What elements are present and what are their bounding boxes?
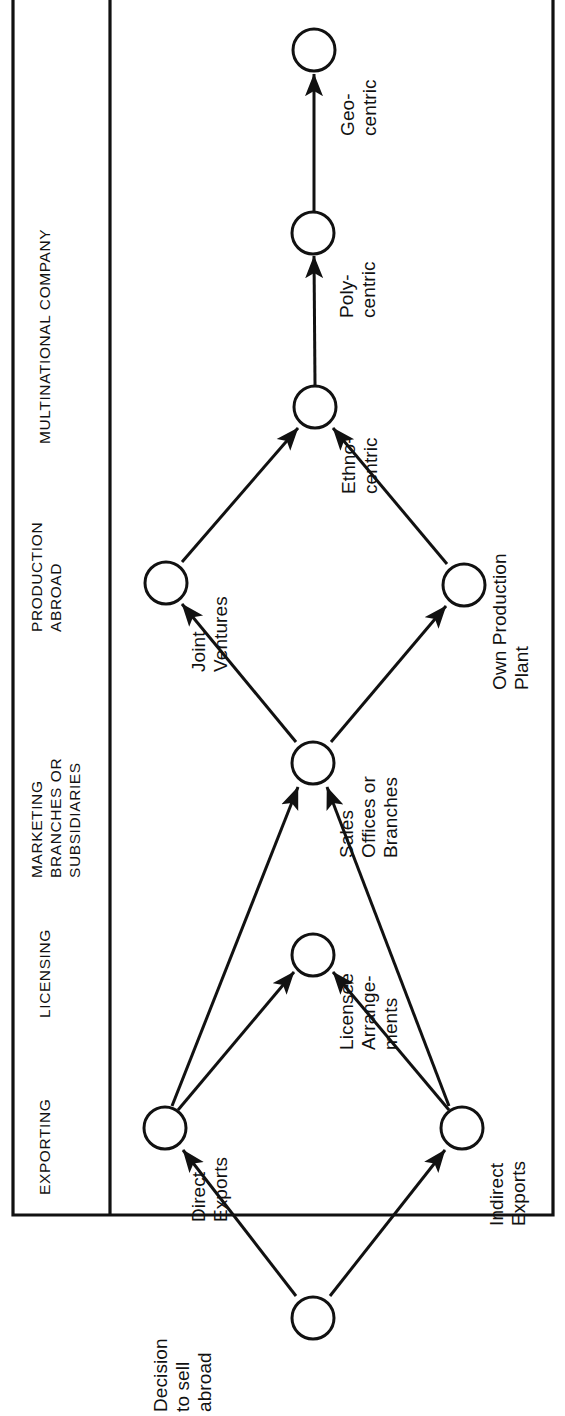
node-label-ethnocentric: Ethno- centric bbox=[338, 437, 382, 494]
edge-joint-ventures-to-ethnocentric bbox=[182, 428, 298, 562]
node-label-decision-line1: Decision bbox=[150, 1338, 172, 1412]
node-indirect-exports bbox=[441, 1107, 483, 1149]
node-label-own-line1: Own Production bbox=[489, 553, 511, 690]
node-label-direct-line1: Direct bbox=[188, 1157, 210, 1222]
node-licensee bbox=[292, 934, 334, 976]
header-label-marketing: MARKETING BRANCHES OR SUBSIDIARIES bbox=[28, 758, 85, 878]
node-label-licensee: Licensee Arrange- ments bbox=[336, 973, 402, 1050]
node-label-indirect-exports: Indirect Exports bbox=[486, 1161, 530, 1226]
node-label-polycentric: Poly- centric bbox=[336, 261, 380, 318]
node-polycentric bbox=[292, 212, 334, 254]
node-geocentric bbox=[293, 29, 335, 71]
node-ethnocentric bbox=[294, 386, 336, 428]
nodes-group bbox=[144, 29, 485, 1339]
header-label-licensing: LICENSING bbox=[36, 929, 53, 1018]
node-label-direct-exports: Direct Exports bbox=[188, 1157, 232, 1222]
diagram-vector-layer bbox=[0, 0, 565, 1416]
node-label-decision-line3: abroad bbox=[194, 1338, 216, 1412]
node-label-sales-offices: Sales Offices or Branches bbox=[336, 776, 402, 858]
header-exporting-text: EXPORTING bbox=[36, 1099, 53, 1195]
header-licensing-text: LICENSING bbox=[36, 929, 53, 1018]
header-marketing-line3: SUBSIDIARIES bbox=[66, 758, 85, 878]
node-own-production bbox=[443, 564, 485, 606]
node-label-licensee-line2: Arrange- bbox=[358, 973, 380, 1050]
diagram-canvas: EXPORTING LICENSING MARKETING BRANCHES O… bbox=[0, 0, 565, 1416]
node-label-poly-line2: centric bbox=[358, 261, 380, 318]
node-label-own-production: Own Production Plant bbox=[489, 553, 533, 690]
edge-sales-offices-to-own-production bbox=[331, 606, 446, 742]
edges-group bbox=[172, 74, 449, 1296]
node-label-indirect-line2: Exports bbox=[508, 1161, 530, 1226]
node-label-decision: Decision to sell abroad bbox=[150, 1338, 216, 1412]
node-label-indirect-line1: Indirect bbox=[486, 1161, 508, 1226]
header-marketing-line1: MARKETING bbox=[28, 758, 47, 878]
header-label-exporting: EXPORTING bbox=[36, 1099, 53, 1195]
node-decision bbox=[292, 1297, 334, 1339]
node-label-sales-line2: Offices or bbox=[358, 776, 380, 858]
node-label-own-line2: Plant bbox=[511, 553, 533, 690]
node-label-geo-line1: Geo- bbox=[337, 79, 359, 136]
header-label-multinational: MULTINATIONAL COMPANY bbox=[36, 229, 53, 444]
header-label-production: PRODUCTION ABROAD bbox=[28, 522, 66, 632]
node-label-ethno-line1: Ethno- bbox=[338, 437, 360, 494]
node-label-sales-line1: Sales bbox=[336, 776, 358, 858]
node-direct-exports bbox=[144, 1107, 186, 1149]
node-sales-offices bbox=[292, 742, 334, 784]
header-production-line1: PRODUCTION bbox=[28, 522, 47, 632]
node-label-sales-line3: Branches bbox=[380, 776, 402, 858]
header-marketing-line2: BRANCHES OR bbox=[47, 758, 66, 878]
node-label-poly-line1: Poly- bbox=[336, 261, 358, 318]
node-label-geocentric: Geo- centric bbox=[337, 79, 381, 136]
node-label-licensee-line3: ments bbox=[380, 973, 402, 1050]
node-label-direct-line2: Exports bbox=[210, 1157, 232, 1222]
edge-ethnocentric-to-polycentric bbox=[314, 256, 315, 385]
node-label-licensee-line1: Licensee bbox=[336, 973, 358, 1050]
node-label-joint-line2: Ventures bbox=[210, 596, 232, 672]
node-label-geo-line2: centric bbox=[359, 79, 381, 136]
edge-decision-to-indirect-exports bbox=[330, 1150, 445, 1296]
node-label-joint-ventures: Joint Ventures bbox=[188, 596, 232, 672]
node-joint-ventures bbox=[145, 562, 187, 604]
header-production-line2: ABROAD bbox=[47, 522, 66, 632]
edge-direct-to-licensee bbox=[178, 972, 294, 1110]
node-label-ethno-line2: centric bbox=[360, 437, 382, 494]
edge-direct-to-sales-offices bbox=[172, 787, 298, 1106]
diagram-frame bbox=[13, 0, 553, 1215]
node-label-decision-line2: to sell bbox=[172, 1338, 194, 1412]
node-label-joint-line1: Joint bbox=[188, 596, 210, 672]
header-multinational-text: MULTINATIONAL COMPANY bbox=[36, 229, 53, 444]
